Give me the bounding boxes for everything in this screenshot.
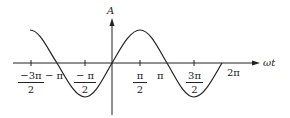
x-axis-arrow-icon [252, 61, 260, 66]
diagram-graphics [0, 0, 290, 118]
tick-label-neg-3pi-over-2: −3π 2 [18, 71, 44, 95]
tick-label-neg-pi: − π [45, 71, 63, 81]
tick-label-neg-pi-over-2: − π 2 [74, 71, 96, 95]
tick-label-pi-over-2: π 2 [133, 71, 147, 95]
y-axis-arrow-icon [110, 18, 115, 26]
tick-label-2pi: 2π [227, 68, 240, 78]
tick-label-pi: π [157, 71, 164, 81]
tick-label-3pi-over-2: 3π 2 [186, 71, 203, 95]
x-axis-label: ωt [263, 58, 275, 68]
sine-wave-diagram: A ωt −3π 2 − π − π 2 π 2 π 3π 2 2π [0, 0, 290, 118]
y-axis-label: A [107, 6, 114, 16]
